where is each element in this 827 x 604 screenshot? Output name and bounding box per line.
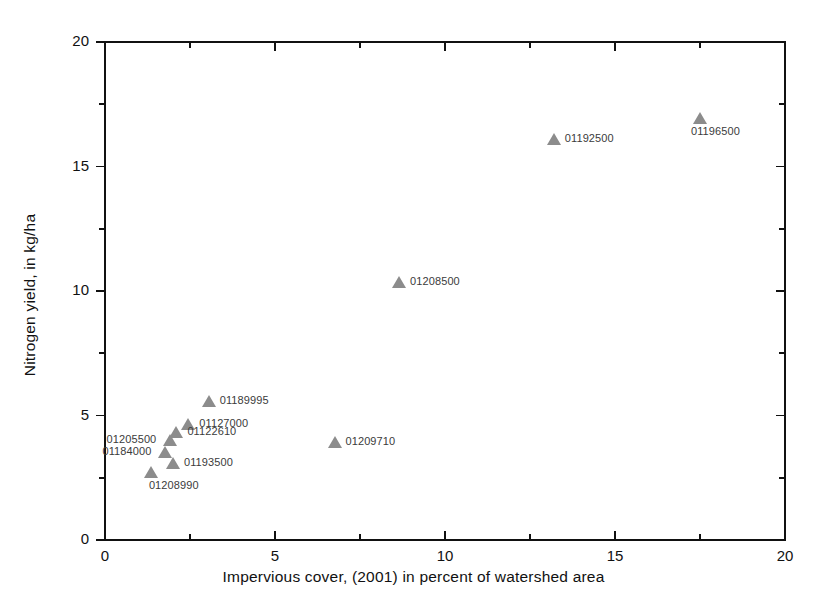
data-point-marker	[328, 436, 342, 448]
x-tick-label: 5	[255, 547, 295, 564]
data-point-marker	[392, 276, 406, 288]
x-tick-label: 15	[595, 547, 635, 564]
y-tick-label: 10	[49, 281, 89, 298]
data-point-marker	[158, 446, 172, 458]
y-tick-label: 0	[49, 530, 89, 547]
data-point-marker	[693, 112, 707, 124]
y-axis-title: Nitrogen yield, in kg/ha	[21, 85, 39, 505]
data-point-marker	[144, 466, 158, 478]
x-tick-label: 20	[765, 547, 805, 564]
data-point-marker	[166, 457, 180, 469]
data-point-label: 01208500	[410, 275, 460, 287]
data-point-label: 01189995	[220, 394, 269, 406]
data-point-label: 01184000	[103, 445, 152, 457]
data-point-label: 01127000	[199, 417, 248, 429]
data-point-label: 01193500	[184, 456, 233, 468]
data-point-label: 01208990	[149, 479, 199, 491]
y-tick-label: 5	[49, 406, 89, 423]
scatter-plot-figure: 0120899001184000012055000119350001122610…	[0, 0, 827, 604]
x-axis-title: Impervious cover, (2001) in percent of w…	[0, 568, 827, 586]
y-tick-label: 15	[49, 157, 89, 174]
data-point-marker	[202, 395, 216, 407]
x-tick-label: 0	[85, 547, 125, 564]
data-point-label: 01209710	[346, 435, 396, 447]
data-point-label: 01196500	[691, 125, 740, 137]
x-tick-label: 10	[425, 547, 465, 564]
data-point-label: 01205500	[107, 433, 157, 445]
y-tick-label: 20	[49, 32, 89, 49]
data-point-marker	[547, 133, 561, 145]
plot-axes	[0, 0, 827, 604]
data-point-label: 01192500	[565, 132, 614, 144]
